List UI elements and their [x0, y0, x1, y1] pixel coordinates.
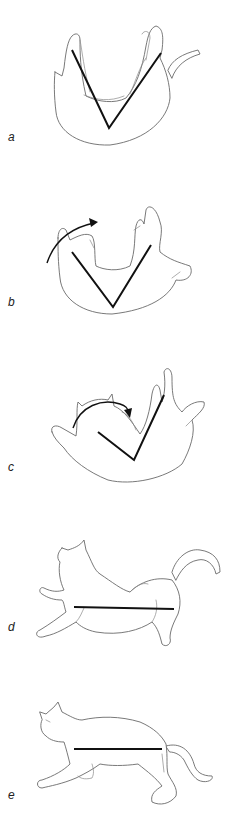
arrow-head-icon — [89, 218, 98, 227]
panel-label-c: c — [8, 460, 14, 474]
cat-landing-illustration — [0, 660, 235, 824]
panel-label-a: a — [8, 130, 15, 144]
panel-label-b: b — [8, 295, 15, 309]
cat-stretched-illustration — [0, 510, 235, 660]
cat-rotating-rear-illustration — [0, 340, 235, 505]
cat-rotating-front-illustration — [0, 170, 235, 335]
panel-label-d: d — [8, 620, 15, 634]
panel-d: d — [0, 510, 235, 660]
panel-b: b — [0, 170, 235, 335]
panel-c: c — [0, 340, 235, 505]
cat-inverted-illustration — [0, 0, 235, 165]
panel-e: e — [0, 660, 235, 824]
panel-label-e: e — [8, 788, 15, 802]
panel-a: a — [0, 0, 235, 165]
